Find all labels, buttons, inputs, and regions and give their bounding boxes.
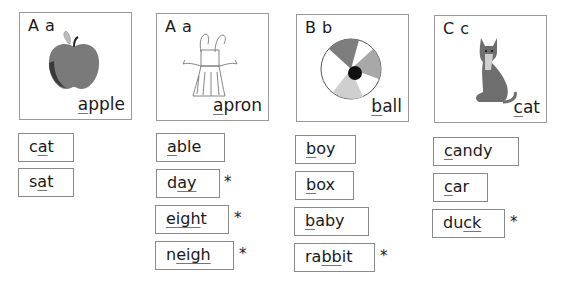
word-card-baby: baby bbox=[294, 207, 369, 236]
picture-card-ball: B b ball bbox=[296, 14, 409, 122]
card-letters: B b bbox=[305, 18, 333, 37]
card-letters: C c bbox=[443, 19, 470, 38]
apron-icon bbox=[179, 32, 239, 100]
word-card-box: box bbox=[295, 171, 354, 200]
word-card-candy: candy bbox=[433, 137, 519, 166]
word-card-cat: cat bbox=[18, 133, 74, 162]
word-card-able: able bbox=[156, 133, 225, 162]
asterisk-marker: * bbox=[234, 209, 242, 227]
picture-card-apron: A a apron bbox=[156, 13, 269, 121]
asterisk-marker: * bbox=[239, 245, 247, 263]
word-card-neigh: neigh bbox=[155, 241, 234, 270]
word-card-day: day bbox=[156, 169, 220, 198]
ball-icon bbox=[319, 37, 383, 101]
word-card-eight: eight bbox=[155, 205, 229, 234]
card-word: cat bbox=[514, 97, 540, 117]
word-card-car: car bbox=[433, 173, 488, 202]
cat-icon bbox=[473, 36, 521, 106]
card-word: apron bbox=[213, 95, 262, 115]
picture-card-apple: A a apple bbox=[19, 12, 132, 120]
word-card-sat: sat bbox=[18, 168, 74, 197]
word-card-boy: boy bbox=[295, 135, 356, 164]
word-card-rabbit: rabbit bbox=[294, 243, 375, 272]
asterisk-marker: * bbox=[380, 247, 388, 265]
card-word: apple bbox=[78, 94, 125, 114]
card-word: ball bbox=[371, 96, 402, 116]
asterisk-marker: * bbox=[224, 173, 232, 191]
word-card-duck: duck bbox=[432, 209, 505, 238]
picture-card-cat: C c cat bbox=[434, 15, 547, 123]
apple-icon bbox=[44, 31, 104, 93]
asterisk-marker: * bbox=[510, 213, 518, 231]
